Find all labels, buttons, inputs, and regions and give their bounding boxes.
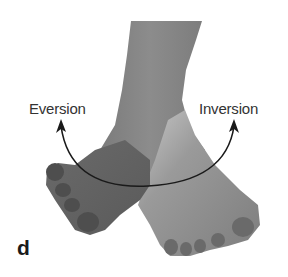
inversion-label: Inversion [199,101,258,116]
arrowhead-right-icon [229,119,239,133]
panel-letter: d [17,237,30,258]
foot-eversion-inversion-figure: Eversion Inversion d [0,0,288,277]
eversion-label: Eversion [29,101,86,116]
foot-illustration [0,0,288,277]
